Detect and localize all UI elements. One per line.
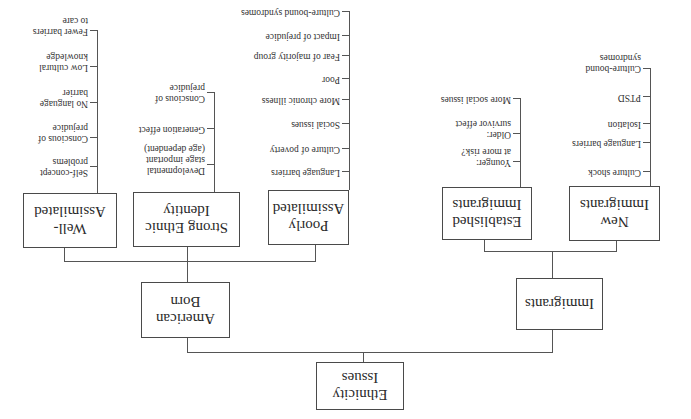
leaf-item: Developmental — [147, 165, 205, 176]
established-immigrants-line2: Immigrants — [452, 197, 521, 214]
poorly-assimilated-line2: Assimilated — [273, 201, 345, 218]
leaf-item: Conscious of — [155, 93, 205, 104]
node-established-immigrants: Established Immigrants — [442, 187, 532, 240]
leaf-item: Language barriers — [271, 167, 340, 178]
leaf-item: at more risk? — [461, 146, 511, 157]
leaf-tick — [342, 11, 350, 12]
leaf-item: Culture-bound syndromes — [241, 7, 340, 18]
leaf-tick — [90, 66, 98, 67]
leaf-item: Generation effect — [139, 124, 205, 135]
leaf-item: No language — [40, 98, 88, 109]
american-born-line2: Born — [171, 293, 201, 310]
node-poorly-assimilated: Poorly Assimilated — [268, 190, 349, 245]
immigrants-label: Immigrants — [525, 296, 594, 313]
leaf-tick — [513, 161, 521, 162]
leaf-tick — [90, 137, 98, 138]
leaf-item: Self-concept — [40, 167, 88, 178]
root-label-line2: Issues — [342, 369, 379, 386]
leaf-tick — [207, 128, 215, 129]
connector — [616, 241, 617, 252]
leaf-spine — [650, 69, 651, 186]
well-assimilated-line1: Well- — [54, 221, 87, 238]
leaf-tick — [342, 35, 350, 36]
leaf-item: Younger: — [476, 157, 511, 168]
established-immigrants-line1: Established — [452, 214, 521, 231]
leaf-tick — [513, 133, 521, 134]
leaf-tick — [207, 92, 215, 93]
well-assimilated-line2: Assimilated — [34, 204, 106, 221]
connector — [187, 338, 188, 353]
leaf-item: Culture of poverty — [270, 144, 340, 155]
leaf-item: (age dependent) — [144, 143, 205, 154]
leaf-spine — [349, 12, 350, 190]
root-label-line1: Ethnicity — [333, 386, 388, 403]
connector — [187, 352, 553, 353]
leaf-spine — [97, 31, 98, 193]
leaf-item: to care — [62, 15, 88, 26]
new-immigrants-line1: New — [600, 214, 628, 231]
leaf-tick — [513, 98, 521, 99]
strong-ethnic-identity-line1: Strong Ethnic — [145, 220, 228, 237]
poorly-assimilated-line1: Poorly — [289, 218, 329, 235]
leaf-tick — [207, 164, 215, 165]
node-well-assimilated: Well- Assimilated — [23, 193, 117, 248]
leaf-item: Older: — [487, 129, 511, 140]
leaf-spine — [520, 99, 521, 187]
leaf-item: Language barriers — [572, 138, 641, 149]
node-american-born: American Born — [141, 282, 230, 338]
connector — [363, 353, 364, 362]
leaf-item: Fear of majority group — [254, 51, 340, 62]
leaf-item: PTSD — [618, 92, 641, 103]
leaf-tick — [643, 96, 651, 97]
leaf-item: Culture shock — [588, 167, 641, 178]
leaf-tick — [90, 166, 98, 167]
leaf-item: Social issues — [291, 119, 340, 130]
leaf-tick — [643, 68, 651, 69]
leaf-spine — [214, 93, 215, 192]
leaf-item: knowledge — [46, 51, 88, 62]
leaf-tick — [342, 99, 350, 100]
node-immigrants: Immigrants — [516, 278, 603, 330]
leaf-item: Isolation — [608, 119, 641, 130]
leaf-tick — [342, 148, 350, 149]
connector — [484, 240, 485, 252]
connector — [187, 247, 188, 262]
ethnicity-issues-tree-diagram: Ethnicity Issues Immigrants New Immigran… — [0, 0, 691, 419]
leaf-item: Impact of prejudice — [266, 31, 340, 42]
leaf-tick — [342, 171, 350, 172]
leaf-item: stage important — [146, 154, 205, 165]
leaf-item: barrier — [63, 87, 88, 98]
leaf-item: Low cultural — [39, 62, 88, 73]
leaf-tick — [342, 55, 350, 56]
connector — [64, 261, 316, 262]
leaf-item: survivor effect — [456, 118, 511, 129]
leaf-item: syndromes — [600, 52, 641, 63]
leaf-item: Fewer barriers — [33, 26, 88, 37]
connector — [484, 251, 617, 252]
leaf-tick — [90, 102, 98, 103]
new-immigrants-line2: Immigrants — [580, 197, 649, 214]
strong-ethnic-identity-line2: Identity — [163, 203, 210, 220]
leaf-tick — [643, 123, 651, 124]
leaf-item: problems — [53, 156, 88, 167]
connector — [64, 248, 65, 262]
root-node-ethnicity-issues: Ethnicity Issues — [316, 362, 404, 410]
connector — [315, 245, 316, 262]
leaf-item: More chronic illness — [262, 95, 340, 106]
leaf-tick — [90, 30, 98, 31]
leaf-item: Culture-bound — [586, 63, 641, 74]
node-new-immigrants: New Immigrants — [569, 186, 660, 241]
american-born-line1: American — [156, 310, 215, 327]
leaf-item: prejudice — [170, 82, 205, 93]
leaf-tick — [643, 142, 651, 143]
leaf-item: prejudice — [53, 122, 88, 133]
leaf-item: Poor — [322, 74, 340, 85]
leaf-item: Conscious of — [38, 133, 88, 144]
connector — [552, 252, 553, 278]
leaf-item: More social issues — [441, 94, 511, 105]
leaf-tick — [342, 123, 350, 124]
leaf-tick — [643, 171, 651, 172]
connector — [187, 262, 188, 282]
leaf-tick — [342, 78, 350, 79]
connector — [552, 330, 553, 353]
